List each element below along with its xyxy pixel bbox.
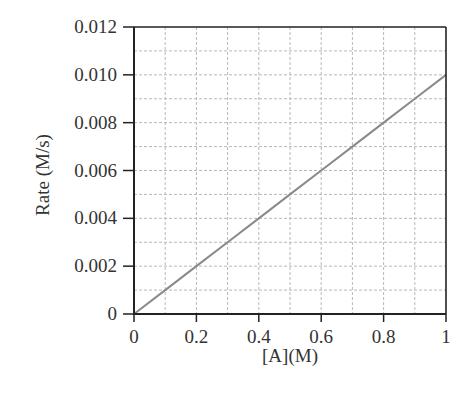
y-tick-label: 0 — [108, 303, 118, 324]
grid-lines — [134, 27, 446, 314]
y-tick-label: 0.008 — [74, 112, 117, 133]
rate-vs-concentration-chart: 00.20.40.60.81 00.0020.0040.0060.0080.01… — [0, 0, 468, 408]
x-axis-ticks: 00.20.40.60.81 — [129, 314, 451, 347]
y-tick-label: 0.006 — [74, 160, 117, 181]
y-tick-label: 0.002 — [74, 255, 117, 276]
x-tick-label: 0.4 — [247, 326, 271, 347]
x-tick-label: 0.6 — [309, 326, 333, 347]
x-tick-label: 1 — [441, 326, 451, 347]
x-tick-label: 0.2 — [185, 326, 209, 347]
x-tick-label: 0 — [129, 326, 139, 347]
x-axis-title: [A](M) — [262, 345, 318, 367]
y-axis-title: Rate (M/s) — [32, 134, 54, 216]
y-tick-label: 0.010 — [74, 64, 117, 85]
y-tick-label: 0.012 — [74, 16, 117, 37]
y-axis-ticks: 00.0020.0040.0060.0080.0100.012 — [74, 16, 134, 324]
x-tick-label: 0.8 — [372, 326, 396, 347]
y-tick-label: 0.004 — [74, 207, 117, 228]
